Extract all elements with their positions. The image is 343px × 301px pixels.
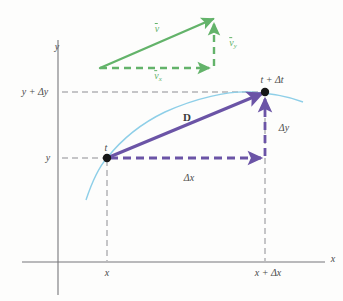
v-bar-y-glyph: v: [229, 38, 233, 48]
trajectory-curve: [86, 92, 303, 200]
y-tick-label-lower: y: [46, 153, 50, 163]
point-marker-t: [103, 154, 111, 162]
velocity-x-component-label: vx: [154, 71, 162, 83]
v-bar-x-glyph: v: [154, 71, 158, 81]
velocity-vector-label: v: [155, 24, 159, 34]
x-tick-label-left: x: [105, 268, 109, 278]
diagram-canvas: [0, 0, 343, 301]
v-bar-glyph: v: [155, 24, 159, 34]
delta-x-label: Δx: [184, 173, 194, 183]
v-y-subscript: y: [234, 42, 237, 50]
y-axis-label: y: [55, 42, 59, 52]
v-x-subscript: x: [159, 75, 162, 83]
velocity-y-component-label: vy: [229, 38, 237, 50]
delta-y-label: Δy: [279, 123, 289, 133]
y-tick-label-upper: y + Δy: [22, 87, 49, 97]
displacement-label: D: [183, 112, 191, 123]
displacement-vector-D: [107, 94, 262, 159]
vector-diagram-figure: y x y + Δy y x x + Δx v vx vy D Δx Δy t …: [0, 0, 343, 301]
x-axis-label: x: [331, 254, 335, 264]
point-marker-t-plus-delta-t: [261, 88, 269, 96]
x-tick-label-right: x + Δx: [255, 268, 282, 278]
point-label-t-plus-delta-t: t + Δt: [260, 75, 283, 85]
point-label-t: t: [105, 143, 108, 153]
